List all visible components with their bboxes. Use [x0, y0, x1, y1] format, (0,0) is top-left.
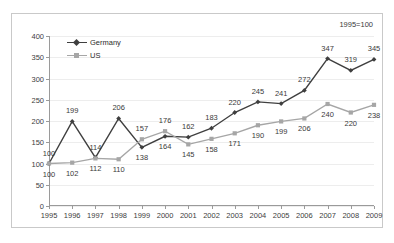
x-tick-label: 2004 [250, 211, 267, 220]
x-tick-label: 2006 [296, 211, 313, 220]
data-label: 138 [136, 153, 149, 162]
legend: GermanyUS [67, 36, 121, 62]
data-point-marker [47, 161, 51, 165]
legend-item-germany: Germany [67, 36, 121, 49]
legend-label: US [90, 51, 100, 60]
data-label: 112 [89, 164, 101, 173]
data-label: 199 [66, 106, 79, 115]
x-tick-mark [165, 206, 166, 209]
y-tick-label: 150 [31, 138, 44, 147]
y-tick-label: 200 [31, 117, 44, 126]
x-tick-mark [95, 206, 96, 209]
data-point-marker [140, 137, 144, 141]
data-label: 199 [275, 127, 288, 136]
legend-marker-diamond-icon [73, 38, 80, 45]
legend-item-us: US [67, 49, 121, 62]
x-tick-label: 2008 [342, 211, 359, 220]
data-label: 183 [205, 113, 218, 122]
x-tick-mark [142, 206, 143, 209]
legend-label: Germany [90, 38, 121, 47]
data-point-marker [279, 119, 283, 123]
data-label: 347 [321, 44, 334, 53]
y-tick-label: 50 [36, 180, 44, 189]
x-tick-label: 1996 [64, 211, 81, 220]
x-tick-label: 1999 [134, 211, 151, 220]
data-point-marker [163, 134, 168, 139]
data-label: 241 [275, 89, 288, 98]
y-tick-label: 100 [31, 159, 44, 168]
data-label: 238 [368, 111, 381, 120]
data-label: 164 [159, 142, 172, 151]
y-tick-label: 250 [31, 95, 44, 104]
x-tick-mark [72, 206, 73, 209]
data-label: 171 [228, 139, 241, 148]
x-tick-label: 2009 [366, 211, 383, 220]
data-label: 100 [43, 170, 56, 179]
data-label: 245 [252, 87, 265, 96]
data-point-marker [186, 135, 191, 140]
x-tick-mark [351, 206, 352, 209]
y-tick-label: 0 [40, 202, 44, 211]
y-tick-label: 350 [31, 53, 44, 62]
data-point-marker [256, 99, 261, 104]
data-point-marker [302, 116, 306, 120]
x-tick-label: 2002 [203, 211, 220, 220]
data-point-marker [372, 57, 377, 62]
x-tick-mark [328, 206, 329, 209]
data-label: 176 [159, 116, 172, 125]
x-tick-label: 2007 [319, 211, 336, 220]
data-label: 158 [205, 145, 218, 154]
data-point-marker [349, 110, 353, 114]
x-tick-label: 1995 [41, 211, 58, 220]
x-tick-mark [188, 206, 189, 209]
data-point-marker [325, 102, 329, 106]
data-point-marker [70, 161, 74, 165]
x-tick-label: 1998 [110, 211, 127, 220]
data-label: 110 [113, 165, 125, 174]
x-tick-mark [374, 206, 375, 209]
data-label: 114 [89, 143, 101, 152]
x-tick-mark [258, 206, 259, 209]
legend-marker-square-icon [74, 53, 79, 58]
data-label: 102 [66, 169, 79, 178]
data-label: 100 [43, 149, 56, 158]
data-label: 145 [182, 150, 195, 159]
x-tick-mark [235, 206, 236, 209]
data-label: 220 [345, 119, 358, 128]
x-tick-label: 2005 [273, 211, 290, 220]
data-point-marker [372, 103, 376, 107]
data-label: 240 [321, 110, 334, 119]
x-tick-mark [281, 206, 282, 209]
x-tick-mark [49, 206, 50, 209]
data-point-marker [209, 137, 213, 141]
data-label: 162 [182, 122, 195, 131]
data-point-marker [163, 129, 167, 133]
legend-swatch-icon [67, 51, 87, 60]
data-point-marker [256, 123, 260, 127]
x-tick-label: 2000 [157, 211, 174, 220]
x-tick-label: 2001 [180, 211, 197, 220]
y-tick-label: 400 [31, 32, 44, 41]
data-label: 157 [136, 124, 149, 133]
data-label: 272 [298, 75, 311, 84]
legend-swatch-icon [67, 38, 87, 47]
data-label: 319 [345, 55, 358, 64]
x-tick-label: 1997 [87, 211, 104, 220]
data-point-marker [117, 157, 121, 161]
x-tick-mark [304, 206, 305, 209]
data-label: 220 [228, 98, 241, 107]
data-label: 190 [252, 131, 265, 140]
data-point-marker [93, 156, 97, 160]
data-label: 206 [298, 124, 311, 133]
data-label: 206 [112, 103, 125, 112]
y-tick-label: 300 [31, 74, 44, 83]
x-tick-mark [119, 206, 120, 209]
index-note: 1995=100 [339, 20, 373, 29]
x-tick-label: 2003 [226, 211, 243, 220]
data-point-marker [233, 131, 237, 135]
x-tick-mark [212, 206, 213, 209]
data-point-marker [186, 142, 190, 146]
data-point-marker [348, 68, 353, 73]
data-label: 345 [368, 44, 381, 53]
chart-frame: 1995=100 050100150200250300350400 199519… [11, 13, 383, 228]
